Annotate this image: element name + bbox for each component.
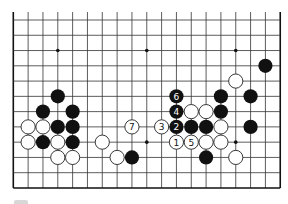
black-stone (243, 89, 257, 103)
white-stone (36, 120, 50, 134)
white-stone-move-5: 5 (184, 135, 198, 149)
move-number-label: 2 (174, 122, 180, 132)
white-stone (214, 120, 228, 134)
stone-disc (66, 120, 80, 134)
stone-disc (66, 150, 80, 164)
black-stone (66, 105, 80, 119)
black-stone (214, 105, 228, 119)
stone-disc (51, 135, 65, 149)
move-number-label: 6 (174, 92, 180, 102)
black-stone-move-6: 6 (169, 89, 183, 103)
stone-disc (21, 135, 35, 149)
black-stone (258, 59, 272, 73)
star-point (145, 49, 149, 53)
black-stone-move-2: 2 (169, 120, 183, 134)
stone-disc (21, 120, 35, 134)
white-stone (95, 135, 109, 149)
star-point (145, 140, 149, 144)
stone-disc (214, 89, 228, 103)
stone-disc (214, 105, 228, 119)
white-stone (184, 105, 198, 119)
stone-disc (66, 135, 80, 149)
stone-disc (243, 89, 257, 103)
stone-disc (199, 120, 213, 134)
move-number-label: 5 (188, 138, 194, 148)
white-stone (21, 120, 35, 134)
black-stone (125, 150, 139, 164)
star-point (234, 140, 238, 144)
black-stone (184, 120, 198, 134)
white-stone (21, 135, 35, 149)
black-stone (66, 120, 80, 134)
white-stone (51, 150, 65, 164)
move-number-label: 4 (174, 107, 180, 117)
stone-disc (199, 105, 213, 119)
white-stone-move-7: 7 (125, 120, 139, 134)
black-stone (51, 120, 65, 134)
white-stone-move-1: 1 (169, 135, 183, 149)
star-point (234, 49, 238, 53)
black-stone (214, 89, 228, 103)
stone-disc (199, 150, 213, 164)
stone-disc (36, 105, 50, 119)
caption-fragment (14, 200, 28, 204)
black-stone (199, 150, 213, 164)
stone-disc (125, 150, 139, 164)
white-stone (229, 150, 243, 164)
stone-disc (51, 89, 65, 103)
stone-disc (243, 120, 257, 134)
stone-disc (214, 135, 228, 149)
white-stone (51, 135, 65, 149)
move-number-label: 3 (159, 122, 165, 132)
stone-disc (199, 135, 213, 149)
stone-disc (36, 135, 50, 149)
stone-disc (229, 150, 243, 164)
stone-disc (51, 150, 65, 164)
stone-disc (184, 105, 198, 119)
move-number-label: 1 (174, 138, 180, 148)
stone-disc (258, 59, 272, 73)
white-stone (214, 135, 228, 149)
black-stone (51, 89, 65, 103)
stone-disc (214, 120, 228, 134)
move-number-label: 7 (129, 122, 135, 132)
stone-disc (51, 120, 65, 134)
stone-disc (36, 120, 50, 134)
stone-disc (66, 105, 80, 119)
black-stone (66, 135, 80, 149)
star-point (56, 49, 60, 53)
stone-disc (95, 135, 109, 149)
go-board: 7364215 (0, 0, 288, 204)
white-stone (199, 105, 213, 119)
white-stone (66, 150, 80, 164)
stone-disc (110, 150, 124, 164)
black-stone (243, 120, 257, 134)
white-stone (110, 150, 124, 164)
black-stone (36, 135, 50, 149)
white-stone-move-3: 3 (155, 120, 169, 134)
stone-disc (184, 120, 198, 134)
black-stone (199, 120, 213, 134)
white-stone (199, 135, 213, 149)
white-stone (229, 74, 243, 88)
stone-disc (229, 74, 243, 88)
black-stone (36, 105, 50, 119)
black-stone-move-4: 4 (169, 105, 183, 119)
